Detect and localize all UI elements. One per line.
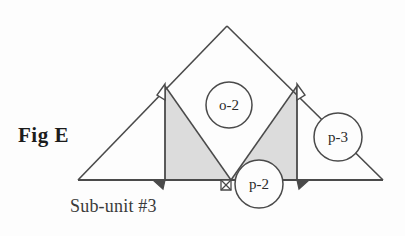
figure-label: Fig E [18, 123, 69, 148]
node-o-2[interactable]: o-2 [206, 82, 252, 128]
node-p-2-label: p-2 [249, 176, 269, 192]
node-p-3[interactable]: p-3 [314, 113, 362, 161]
node-o-2-label: o-2 [219, 97, 239, 113]
diagram-svg: o-2 p-2 p-3 [0, 0, 405, 236]
figure-canvas: o-2 p-2 p-3 Fig E Sub-unit #3 [0, 0, 405, 236]
arrowhead-right-bottom-icon [297, 180, 309, 189]
arrowhead-right-top-icon [297, 84, 305, 100]
node-p-2[interactable]: p-2 [235, 160, 283, 208]
arrowhead-left-bottom-icon [153, 180, 165, 189]
node-p-3-label: p-3 [328, 129, 348, 145]
figure-caption: Sub-unit #3 [70, 196, 157, 217]
